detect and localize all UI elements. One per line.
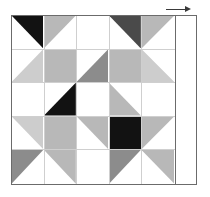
quilt-cell-r3-c4 xyxy=(110,83,143,117)
patch-triangle-br xyxy=(12,50,43,82)
quilt-cell-r1-c1 xyxy=(12,16,45,50)
patch-triangle-tl xyxy=(12,150,43,183)
patch-square xyxy=(45,50,76,82)
patch-triangle-tr xyxy=(142,150,174,183)
patch-triangle-br xyxy=(77,50,108,82)
quilt-cell-r2-c1 xyxy=(12,50,45,84)
patch-triangle-bl xyxy=(110,83,141,115)
quilt-cell-r4-c2 xyxy=(45,117,78,151)
quilt-cell-r4-c5 xyxy=(142,117,175,151)
quilt-cell-r2-c5 xyxy=(142,50,175,84)
quilt-cell-r5-c5 xyxy=(142,150,175,184)
quilt-cell-r2-c3 xyxy=(77,50,110,84)
quilt-cell-r3-c2 xyxy=(45,83,78,117)
width-arrow-icon xyxy=(166,6,192,14)
quilt-cell-r2-c4 xyxy=(110,50,143,84)
patch-triangle-tl xyxy=(142,117,174,149)
quilt-diagram-canvas xyxy=(0,0,210,197)
quilt-cell-r5-c4 xyxy=(110,150,143,184)
quilt-cell-r1-c2 xyxy=(45,16,78,50)
quilt-cell-r4-c3 xyxy=(77,117,110,151)
quilt-cell-r3-c3 xyxy=(77,83,110,117)
arrow-head xyxy=(185,6,191,12)
patch-triangle-tl xyxy=(142,16,174,48)
quilt-cell-r3-c5 xyxy=(142,83,175,117)
patch-square xyxy=(110,50,141,82)
patch-square xyxy=(110,117,141,149)
quilt-grid xyxy=(12,16,196,184)
quilt-cell-r4-c4 xyxy=(110,117,143,151)
quilt-cell-r2-c2 xyxy=(45,50,78,84)
quilt-cell-r5-c2 xyxy=(45,150,78,184)
quilt-block-frame xyxy=(11,15,197,185)
patch-triangle-tr xyxy=(77,117,108,149)
quilt-cell-r5-c1 xyxy=(12,150,45,184)
patch-triangle-bl xyxy=(142,50,174,82)
quilt-cell-r1-c3 xyxy=(77,16,110,50)
patch-triangle-tl xyxy=(45,16,76,48)
patch-triangle-tr xyxy=(12,16,43,48)
quilt-cell-r4-c1 xyxy=(12,117,45,151)
arrow-shaft xyxy=(166,9,187,10)
quilt-cell-r1-c4 xyxy=(110,16,143,50)
quilt-cell-r3-c1 xyxy=(12,83,45,117)
quilt-cell-r1-c5 xyxy=(142,16,175,50)
patch-triangle-tr xyxy=(110,16,141,48)
sashing-strip xyxy=(175,16,196,184)
patch-triangle-tr xyxy=(45,150,76,183)
patch-square xyxy=(45,117,76,149)
quilt-cell-r5-c3 xyxy=(77,150,110,184)
patch-triangle-tr xyxy=(12,117,43,149)
patch-triangle-br xyxy=(45,83,76,115)
patch-triangle-tl xyxy=(110,150,141,183)
